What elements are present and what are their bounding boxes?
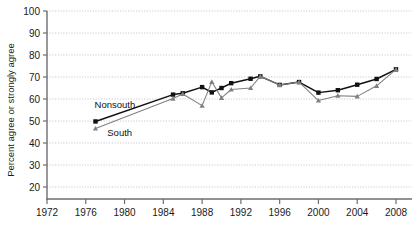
y-axis-tick-label: 100: [23, 6, 40, 17]
line-chart: 1009080706050403020 19721976198019841988…: [0, 0, 416, 239]
x-axis-tick-label: 2008: [385, 207, 408, 218]
x-axis-tick-labels: 1972197619801984198819921996200020042008: [36, 207, 408, 218]
y-axis-tick-label: 70: [29, 72, 41, 83]
x-axis-tick-label: 1972: [36, 207, 59, 218]
marker-square: [248, 77, 252, 81]
series-annotations: NonsouthSouth: [95, 99, 136, 139]
marker-square: [316, 90, 320, 94]
y-axis-tick-label: 40: [29, 138, 41, 149]
marker-square: [200, 85, 204, 89]
marker-square: [336, 88, 340, 92]
marker-square: [355, 83, 359, 87]
series-line-south: [95, 69, 396, 128]
marker-triangle: [209, 79, 214, 84]
marker-square: [93, 119, 97, 123]
marker-triangle: [200, 103, 205, 108]
x-axis-tick-label: 1996: [269, 207, 292, 218]
x-axis-tick-label: 1984: [152, 207, 175, 218]
x-axis-tick-label: 2004: [346, 207, 369, 218]
marker-square: [210, 90, 214, 94]
y-axis-tick-labels: 1009080706050403020: [23, 6, 40, 193]
marker-square: [374, 77, 378, 81]
series-annotation-south: South: [107, 127, 132, 138]
marker-square: [219, 86, 223, 90]
x-axis-tick-label: 1988: [191, 207, 214, 218]
x-axis-tick-label: 1980: [113, 207, 136, 218]
series-nonsouth: [93, 67, 398, 124]
y-axis-tick-label: 30: [29, 160, 41, 171]
x-axis-tick-label: 2000: [307, 207, 330, 218]
series-line-nonsouth: [95, 69, 396, 121]
y-axis-tick-label: 60: [29, 94, 41, 105]
marker-square: [229, 81, 233, 85]
y-axis-label: Percent agree or strongly agree: [5, 43, 16, 177]
y-axis-tick-label: 50: [29, 116, 41, 127]
x-axis-tick-label: 1992: [230, 207, 253, 218]
series-annotation-nonsouth: Nonsouth: [95, 99, 136, 110]
y-axis-tick-label: 80: [29, 50, 41, 61]
y-axis-tick-label: 20: [29, 182, 41, 193]
x-axis-tick-label: 1976: [75, 207, 98, 218]
y-axis-tick-label: 90: [29, 28, 41, 39]
chart-container: 1009080706050403020 19721976198019841988…: [0, 0, 416, 239]
